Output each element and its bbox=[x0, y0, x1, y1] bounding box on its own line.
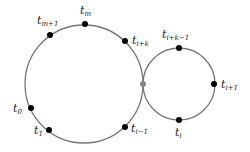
two-circles-diagram: tmtm+1ti+kt0t1ti−1ti+k−1ti+1ti bbox=[0, 0, 250, 152]
label-tm: tm bbox=[80, 4, 91, 18]
label-ti1: ti+1 bbox=[221, 78, 238, 92]
label-t0: t0 bbox=[13, 102, 22, 116]
label-t1: t1 bbox=[34, 124, 43, 138]
point-t0 bbox=[28, 105, 34, 111]
touch-point bbox=[140, 81, 146, 87]
label-tm1: tm+1 bbox=[37, 14, 58, 28]
label-tik: ti+k bbox=[132, 34, 149, 48]
label-tim1: ti−1 bbox=[131, 122, 148, 136]
small-circle bbox=[143, 48, 215, 120]
point-t1 bbox=[46, 127, 52, 133]
point-tik bbox=[122, 38, 128, 44]
point-ti1 bbox=[211, 81, 217, 87]
point-tm1 bbox=[47, 32, 53, 38]
label-tik1: ti+k−1 bbox=[162, 28, 189, 42]
point-tm bbox=[82, 21, 88, 27]
point-ti bbox=[176, 117, 182, 123]
point-tik1 bbox=[176, 45, 182, 51]
point-tim1 bbox=[122, 124, 128, 130]
label-ti: ti bbox=[175, 126, 182, 140]
